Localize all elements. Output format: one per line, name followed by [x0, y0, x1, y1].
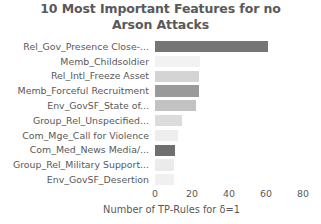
y-axis-tick-label: Memb_Childsoldier	[0, 54, 152, 69]
bar-row	[155, 157, 303, 172]
x-axis-tick-label: 0	[152, 188, 158, 200]
bar-row	[155, 98, 303, 113]
chart-title-line-2: Arson Attacks	[22, 17, 299, 33]
y-axis-tick-label: Memb_Forceful Recruitment	[0, 83, 152, 98]
bar-chart: 10 Most Important Features for no Arson …	[0, 0, 321, 224]
y-axis-tick-label-text: Group_Rel_Military Support...	[13, 159, 149, 170]
bar-row	[155, 128, 303, 143]
bar-row	[155, 54, 303, 69]
bar-row	[155, 83, 303, 98]
y-axis-tick-label-text: Env_GovSF_Desertion	[47, 174, 149, 185]
x-axis-tick-label: 60	[260, 188, 272, 200]
y-axis-tick-label: Env_GovSF_State of...	[0, 98, 152, 113]
bar	[155, 85, 199, 96]
bar-row	[155, 172, 303, 187]
chart-title: 10 Most Important Features for no Arson …	[22, 1, 299, 33]
y-axis-tick-label-text: Rel_Gov_Presence Close-...	[23, 41, 149, 52]
bar	[155, 145, 175, 156]
x-axis-tick-label: 20	[186, 188, 198, 200]
y-axis-tick-label: Com_Med_News Media/...	[0, 143, 152, 158]
x-axis-tick-label: 40	[223, 188, 235, 200]
y-axis-tick-label-text: Com_Mge_Call for Violence	[22, 130, 149, 141]
y-axis-tick-label: Com_Mge_Call for Violence	[0, 128, 152, 143]
y-axis-tick-label: Rel_Intl_Freeze Asset	[0, 69, 152, 84]
y-axis-tick-label: Env_GovSF_Desertion	[0, 172, 152, 187]
y-axis-tick-label: Group_Rel_Unspecified...	[0, 113, 152, 128]
bar-row	[155, 113, 303, 128]
bar	[155, 41, 268, 52]
y-axis-tick-label-text: Rel_Intl_Freeze Asset	[51, 70, 149, 81]
plot-area	[155, 39, 303, 187]
bar-row	[155, 69, 303, 84]
y-axis-tick-label-text: Memb_Forceful Recruitment	[18, 85, 149, 96]
bar	[155, 56, 200, 67]
y-axis-tick-label: Rel_Gov_Presence Close-...	[0, 39, 152, 54]
bar	[155, 71, 199, 82]
y-axis-tick-label-text: Memb_Childsoldier	[60, 56, 149, 67]
x-axis-tick-labels: 0 20 40 60 80	[155, 188, 303, 202]
y-axis-tick-label-text: Group_Rel_Unspecified...	[33, 115, 149, 126]
y-axis-tick-label: Group_Rel_Military Support...	[0, 157, 152, 172]
chart-title-line-1: 10 Most Important Features for no	[22, 1, 299, 17]
bar	[155, 174, 174, 185]
bar-row	[155, 143, 303, 158]
y-axis-tick-label-text: Com_Med_News Media/...	[30, 144, 149, 155]
y-axis-tick-label-text: Env_GovSF_State of...	[47, 100, 149, 111]
bar	[155, 159, 174, 170]
bar	[155, 115, 182, 126]
bar-row	[155, 39, 303, 54]
bar	[155, 100, 196, 111]
bar	[155, 130, 178, 141]
x-axis-title: Number of TP-Rules for δ=1	[22, 204, 321, 215]
x-axis-tick-label: 80	[297, 188, 309, 200]
y-axis-tick-labels: Rel_Gov_Presence Close-... Memb_Childsol…	[0, 39, 152, 187]
